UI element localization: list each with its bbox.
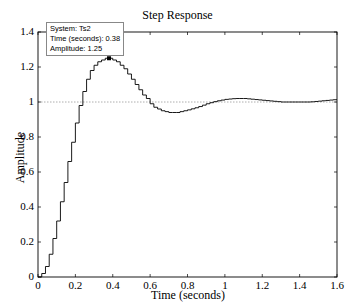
chart-title: Step Response bbox=[0, 8, 355, 23]
x-tick-label: 1.6 bbox=[325, 279, 349, 291]
axes-box bbox=[38, 32, 337, 277]
x-tick-label: 1.4 bbox=[288, 279, 312, 291]
y-tick-label: 0.6 bbox=[0, 165, 34, 177]
y-tick-label: 1 bbox=[0, 95, 34, 107]
x-tick-label: 0.8 bbox=[176, 279, 200, 291]
data-tip-time: Time (seconds): 0.38 bbox=[50, 34, 120, 44]
x-tick-label: 0.2 bbox=[63, 279, 87, 291]
data-tip: System: Ts2 Time (seconds): 0.38 Amplitu… bbox=[46, 22, 124, 56]
data-tip-system: System: Ts2 bbox=[50, 24, 120, 34]
y-tick-label: 0.8 bbox=[0, 130, 34, 142]
y-tick-label: 0 bbox=[0, 270, 34, 282]
x-tick-label: 0.4 bbox=[101, 279, 125, 291]
y-tick-label: 0.2 bbox=[0, 235, 34, 247]
x-tick-label: 0.6 bbox=[138, 279, 162, 291]
x-tick-label: 1.2 bbox=[250, 279, 274, 291]
x-tick-label: 1 bbox=[213, 279, 237, 291]
data-tip-marker[interactable] bbox=[107, 56, 111, 60]
step-response-line bbox=[38, 58, 337, 277]
y-tick-label: 0.4 bbox=[0, 200, 34, 212]
y-tick-label: 1.2 bbox=[0, 60, 34, 72]
y-tick-label: 1.4 bbox=[0, 25, 34, 37]
data-tip-amplitude: Amplitude: 1.25 bbox=[50, 44, 120, 54]
